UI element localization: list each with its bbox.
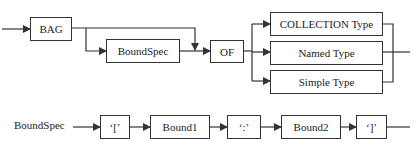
bag-box: BAG [30,17,72,41]
close-bracket-box: ‘]’ [356,115,387,139]
boundspec-box: BoundSpec [106,39,180,63]
bound1-box: Bound1 [150,115,210,139]
simple-type-box: Simple Type [270,70,383,94]
collection-type-box: COLLECTION Type [270,12,383,36]
open-bracket-box: ‘[’ [100,115,130,139]
colon-box: ‘:’ [227,115,261,139]
of-box: OF [210,40,244,63]
bound2-box: Bound2 [281,115,341,139]
named-type-box: Named Type [270,41,383,65]
rule-name-label: BoundSpec [14,119,65,131]
